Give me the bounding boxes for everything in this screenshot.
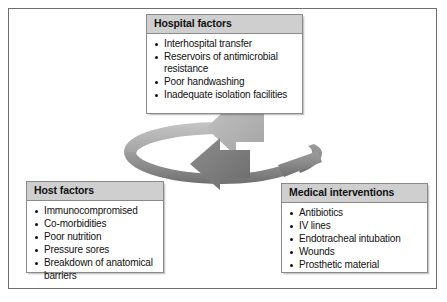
box-hospital-title: Hospital factors (147, 15, 302, 34)
box-host-title: Host factors (27, 182, 163, 201)
list-item: Poor nutrition (33, 231, 158, 244)
box-medical-title: Medical interventions (282, 184, 427, 203)
list-item: Co-morbidities (33, 218, 158, 231)
list-item: Breakdown of anatomical barriers (33, 257, 158, 282)
box-medical-body: Antibiotics IV lines Endotracheal intuba… (282, 203, 427, 276)
box-medical-interventions: Medical interventions Antibiotics IV lin… (281, 183, 428, 273)
diagram-canvas: Hospital factors Interhospital transfer … (0, 0, 447, 302)
list-item: Poor handwashing (153, 76, 297, 89)
list-item: Endotracheal intubation (288, 233, 422, 246)
list-item: Pressure sores (33, 244, 158, 257)
list-item: Interhospital transfer (153, 38, 297, 51)
host-factor-list: Immunocompromised Co-morbidities Poor nu… (33, 205, 158, 283)
box-host-body: Immunocompromised Co-morbidities Poor nu… (27, 201, 163, 287)
list-item: Wounds (288, 246, 422, 259)
list-item: IV lines (288, 220, 422, 233)
box-hospital-factors: Hospital factors Interhospital transfer … (146, 14, 303, 114)
list-item: Prosthetic material (288, 259, 422, 272)
box-host-factors: Host factors Immunocompromised Co-morbid… (26, 181, 164, 273)
medical-intervention-list: Antibiotics IV lines Endotracheal intuba… (288, 207, 422, 272)
list-item: Reservoirs of antimicrobial resistance (153, 51, 297, 76)
list-item: Immunocompromised (33, 205, 158, 218)
ring-segment-right (278, 151, 322, 177)
box-hospital-body: Interhospital transfer Reservoirs of ant… (147, 34, 302, 107)
list-item: Antibiotics (288, 207, 422, 220)
list-item: Inadequate isolation facilities (153, 89, 297, 102)
hospital-factor-list: Interhospital transfer Reservoirs of ant… (153, 38, 297, 102)
